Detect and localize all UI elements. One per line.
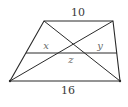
segment-x-label: x	[43, 40, 49, 51]
diagonal-top-left-to-bottom-right	[44, 21, 120, 81]
trapezoid-diagram: 10 16 x y z	[0, 0, 128, 107]
vertex-bottom-right	[119, 80, 121, 82]
segment-y-label: y	[96, 40, 103, 51]
trapezoid-outline	[10, 21, 120, 81]
diagram-svg: 10 16 x y z	[0, 0, 128, 107]
vertex-bottom-left	[9, 80, 11, 82]
diagonal-top-right-to-bottom-left	[10, 21, 113, 81]
top-base-label: 10	[71, 6, 85, 19]
bottom-base-label: 16	[61, 84, 75, 97]
segment-z-label: z	[67, 54, 74, 65]
